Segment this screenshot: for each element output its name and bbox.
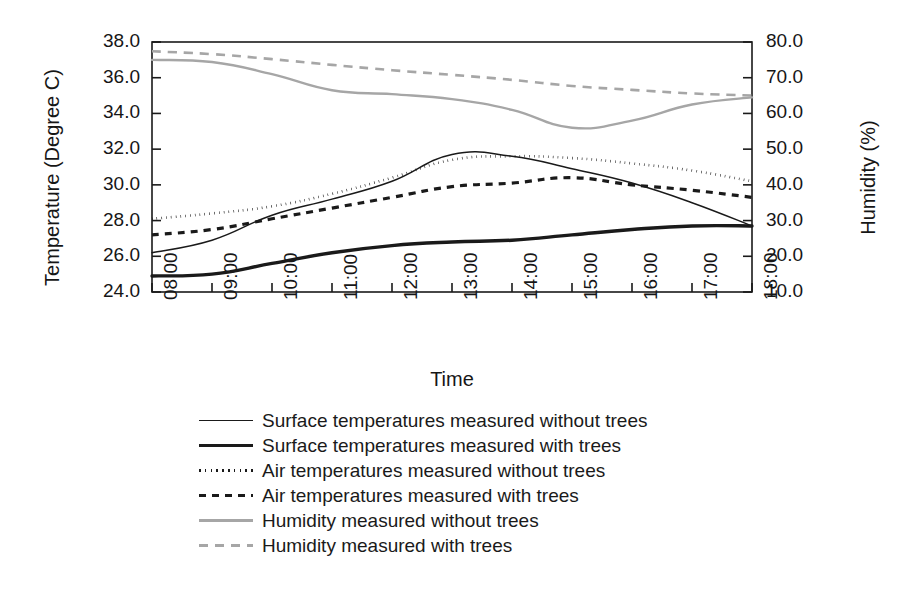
legend-swatch-icon — [196, 462, 258, 480]
legend-item[interactable]: Humidity measured without trees — [196, 508, 756, 533]
chart-legend: Surface temperatures measured without tr… — [196, 408, 756, 558]
legend-label: Surface temperatures measured with trees — [258, 435, 621, 457]
legend-item[interactable]: Air temperatures measured without trees — [196, 458, 756, 483]
chart-figure: Temperature (Degree C) Humidity (%) Time… — [0, 0, 911, 597]
series-line-4 — [152, 60, 752, 129]
legend-swatch-icon — [196, 487, 258, 505]
legend-item[interactable]: Surface temperatures measured without tr… — [196, 408, 756, 433]
legend-label: Humidity measured with trees — [258, 535, 512, 557]
legend-item[interactable]: Surface temperatures measured with trees — [196, 433, 756, 458]
legend-item[interactable]: Air temperatures measured with trees — [196, 483, 756, 508]
series-line-1 — [152, 226, 752, 276]
series-line-5 — [152, 51, 752, 95]
series-group — [152, 51, 752, 276]
legend-label: Surface temperatures measured without tr… — [258, 410, 647, 432]
legend-label: Air temperatures measured with trees — [258, 485, 579, 507]
legend-label: Air temperatures measured without trees — [258, 460, 605, 482]
legend-swatch-icon — [196, 537, 258, 555]
legend-label: Humidity measured without trees — [258, 510, 539, 532]
series-line-0 — [152, 152, 752, 253]
legend-swatch-icon — [196, 437, 258, 455]
legend-item[interactable]: Humidity measured with trees — [196, 533, 756, 558]
legend-swatch-icon — [196, 412, 258, 430]
axes-frame — [152, 42, 752, 292]
legend-swatch-icon — [196, 512, 258, 530]
